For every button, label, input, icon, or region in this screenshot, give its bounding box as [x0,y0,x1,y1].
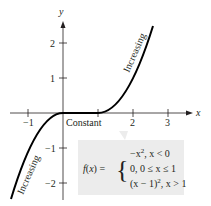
constant-label: Constant [66,117,102,128]
y-tick-label: 2 [50,38,55,49]
y-tick-label: −2 [45,178,56,189]
y-axis-arrow-icon [61,21,66,28]
svg-text:f(x) =: f(x) = [83,163,105,175]
x-axis-arrow-icon [186,111,193,116]
svg-text:{: { [116,155,128,184]
formula-case-1: −x2, x < 0 [130,147,170,159]
x-tick-label: 3 [165,117,170,128]
x-tick-label: −1 [23,117,34,128]
x-tick-label: 2 [130,117,135,128]
y-tick-label: −1 [45,143,56,154]
formula-case-2: 0, 0 ≤ x ≤ 1 [130,163,176,174]
chart: x y −1 2 3 2 1 −1 −2 Constant Increasing… [0,0,211,206]
y-axis-label: y [58,6,64,17]
y-tick-label: 1 [50,73,55,84]
x-axis-label: x [195,107,201,118]
